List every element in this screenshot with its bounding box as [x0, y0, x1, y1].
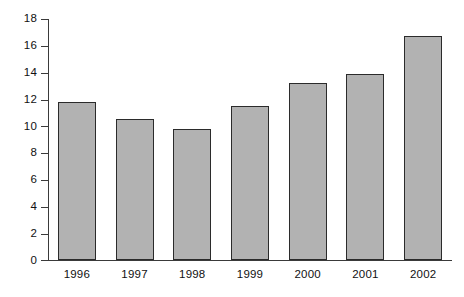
y-tick-label-12: 12	[3, 94, 37, 106]
y-axis-tick-12	[41, 100, 48, 101]
y-tick-label-10: 10	[3, 121, 37, 133]
bar-1997	[116, 119, 154, 260]
y-axis-tick-8	[41, 153, 48, 154]
x-tick-label-1999: 1999	[220, 267, 280, 281]
x-axis-line	[48, 260, 452, 261]
x-tick-label-2000: 2000	[278, 267, 338, 281]
y-tick-label-0: 0	[3, 255, 37, 267]
y-axis-labels: 18 16 14 12 10 8 6 4 2 0	[0, 0, 37, 297]
x-tick-label-1996: 1996	[47, 267, 107, 281]
x-tick-label-2002: 2002	[393, 267, 453, 281]
y-tick-label-2: 2	[3, 228, 37, 240]
y-axis-tick-2	[41, 234, 48, 235]
bar-1996	[58, 102, 96, 260]
bar-2000	[289, 83, 327, 260]
x-tick-label-1998: 1998	[162, 267, 222, 281]
x-tick-label-1997: 1997	[105, 267, 165, 281]
y-axis-tick-18	[41, 19, 48, 20]
y-tick-label-18: 18	[3, 13, 37, 25]
y-axis-tick-10	[41, 126, 48, 127]
bar-chart: 18 16 14 12 10 8 6 4 2 0 199619971998199…	[0, 0, 464, 297]
y-axis-tick-4	[41, 207, 48, 208]
y-tick-label-8: 8	[3, 147, 37, 159]
y-tick-label-16: 16	[3, 40, 37, 52]
bar-1998	[173, 129, 211, 260]
bar-2001	[346, 74, 384, 260]
y-axis-line	[48, 19, 49, 261]
y-axis-tick-16	[41, 46, 48, 47]
x-tick-label-2001: 2001	[335, 267, 395, 281]
bar-1999	[231, 106, 269, 260]
y-axis-tick-0	[41, 260, 48, 261]
y-tick-label-14: 14	[3, 67, 37, 79]
y-tick-label-6: 6	[3, 174, 37, 186]
y-axis-tick-14	[41, 73, 48, 74]
bar-2002	[404, 36, 442, 260]
y-tick-label-4: 4	[3, 201, 37, 213]
y-axis-tick-6	[41, 180, 48, 181]
